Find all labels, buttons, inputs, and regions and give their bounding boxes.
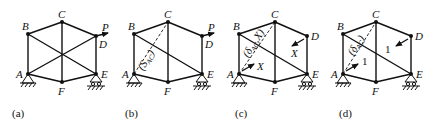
force-label-1: 1 — [362, 55, 368, 67]
force-label-1: 1 — [385, 43, 391, 55]
label-b: B — [337, 20, 344, 32]
label-e: E — [311, 68, 319, 80]
label-c: C — [58, 8, 66, 20]
load-arrow-icon — [202, 33, 214, 36]
caption-d: (d) — [339, 107, 352, 120]
label-d: D — [204, 38, 213, 50]
panel-c: B C D A E F X X (δAC,X) (c) — [226, 8, 319, 120]
label-b: B — [128, 20, 135, 32]
label-c: C — [372, 8, 380, 20]
caption-a: (a) — [12, 107, 25, 120]
truss-figure: B C D P A E F (a) B C D P A E F ( — [0, 0, 437, 127]
label-a: A — [330, 68, 338, 80]
label-e: E — [100, 68, 108, 80]
svg-text:(δAC,X): (δAC,X) — [240, 26, 269, 60]
label-c: C — [164, 8, 172, 20]
member-force-label: (SAC) — [135, 47, 159, 73]
force-label-x: X — [290, 47, 299, 59]
label-f: F — [57, 85, 65, 97]
label-b: B — [233, 20, 240, 32]
label-c: C — [271, 8, 279, 20]
label-e: E — [206, 68, 214, 80]
label-e: E — [415, 68, 423, 80]
member-bc — [28, 22, 62, 34]
label-p: P — [207, 21, 215, 33]
label-f: F — [371, 85, 379, 97]
member-cd — [62, 22, 96, 36]
panel-b: B C D P A E F (SAC) (b) — [121, 8, 215, 120]
caption-c: (c) — [235, 107, 248, 120]
member-deformation-label: (δAC,X) — [240, 26, 269, 60]
node-b — [26, 32, 30, 36]
panel-a: B C D P A E F (a) — [12, 8, 109, 120]
unit-force-arrow-icon — [396, 39, 408, 46]
force-label-x: X — [256, 60, 265, 72]
label-f: F — [163, 85, 171, 97]
label-a: A — [121, 68, 129, 80]
load-arrow-icon — [96, 33, 108, 36]
label-d: D — [98, 38, 107, 50]
node-f — [60, 80, 64, 84]
node-c — [60, 20, 64, 24]
unit-force-arrow-icon — [346, 64, 358, 71]
label-d: D — [310, 30, 319, 42]
label-a: A — [226, 68, 234, 80]
force-arrow-icon — [292, 39, 304, 46]
panel-d: B C D A E F 1 1 (δAC) (d) — [330, 8, 423, 120]
label-d: D — [414, 30, 423, 42]
svg-text:(SAC): (SAC) — [135, 47, 159, 73]
label-b: B — [22, 20, 29, 32]
label-f: F — [270, 85, 278, 97]
force-arrow-icon — [242, 64, 254, 71]
label-p: P — [101, 21, 109, 33]
caption-b: (b) — [125, 107, 138, 120]
label-a: A — [15, 68, 23, 80]
